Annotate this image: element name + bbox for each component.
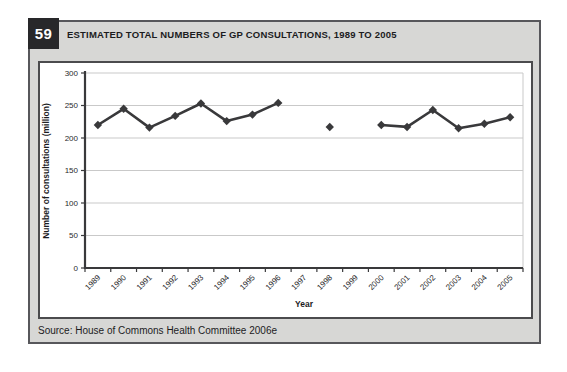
x-tick-label-1990: 1990: [109, 273, 128, 292]
x-tick-label-1991: 1991: [135, 273, 154, 292]
data-point-1995: [248, 110, 256, 118]
figure-number: 59: [35, 25, 53, 42]
y-tick-label-0: 0: [74, 264, 79, 273]
chart-panel: 0501001502002503001989199019911992199319…: [38, 61, 533, 319]
data-point-1992: [171, 112, 179, 120]
y-axis-title: Number of consultations (million): [41, 103, 51, 239]
figure-title: ESTIMATED TOTAL NUMBERS OF GP CONSULTATI…: [67, 29, 531, 40]
y-tick-label-100: 100: [65, 199, 79, 208]
line-chart: 0501001502002503001989199019911992199319…: [40, 63, 531, 317]
y-tick-label-250: 250: [65, 101, 79, 110]
consultations-line: [98, 103, 510, 128]
x-tick-label-2002: 2002: [418, 273, 437, 292]
data-series: [94, 99, 515, 133]
x-tick-label-2000: 2000: [367, 273, 386, 292]
x-tick-label-2003: 2003: [444, 273, 463, 292]
gridlines: [85, 73, 523, 268]
x-tick-label-1989: 1989: [83, 273, 102, 292]
axis-tick-labels: 0501001502002503001989199019911992199319…: [65, 69, 515, 292]
x-tick-label-1998: 1998: [315, 273, 334, 292]
y-tick-label-50: 50: [69, 231, 78, 240]
x-tick-label-1996: 1996: [264, 273, 283, 292]
x-tick-label-1997: 1997: [289, 273, 308, 292]
y-tick-label-300: 300: [65, 69, 79, 78]
y-tick-label-150: 150: [65, 166, 79, 175]
x-tick-label-2004: 2004: [470, 273, 489, 292]
x-tick-label-1995: 1995: [238, 273, 257, 292]
x-axis-title: Year: [295, 299, 314, 309]
x-tick-label-1993: 1993: [186, 273, 205, 292]
x-tick-label-1994: 1994: [212, 273, 231, 292]
x-tick-label-2001: 2001: [393, 273, 412, 292]
data-point-1998: [326, 123, 334, 131]
source-caption: Source: House of Commons Health Committe…: [38, 325, 277, 336]
x-tick-label-1999: 1999: [341, 273, 360, 292]
axes: [81, 71, 523, 272]
x-tick-label-2005: 2005: [496, 273, 515, 292]
figure-card: 59 ESTIMATED TOTAL NUMBERS OF GP CONSULT…: [28, 20, 541, 344]
data-point-2005: [506, 113, 514, 121]
y-tick-label-200: 200: [65, 134, 79, 143]
data-point-2004: [480, 120, 488, 128]
figure-number-badge: 59: [28, 18, 59, 49]
data-point-2000: [377, 121, 385, 129]
x-tick-label-1992: 1992: [161, 273, 180, 292]
